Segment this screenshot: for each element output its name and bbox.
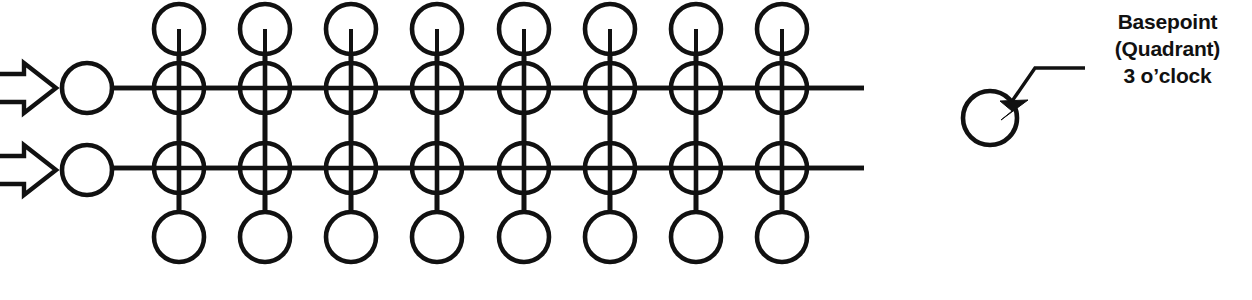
basepoint-quadrant-diagram [0,0,1252,300]
flow-arrows [0,63,56,195]
flow-arrow-upper [0,63,56,113]
legend-caption-line-2: (Quadrant) [1085,35,1250,62]
legend-caption-line-1: Basepoint [1085,8,1250,35]
basepoint-circles [62,63,112,195]
node-circle-r4-c5 [499,212,549,262]
vertical-column-lines [179,29,782,237]
crosshair-overlay [112,56,864,212]
node-circle-r4-c7 [671,212,721,262]
horizontal-main-lines [112,88,864,168]
flow-arrow-lower [0,145,56,195]
node-circle-r4-c3 [326,212,376,262]
basepoint-circle-upper [62,63,112,113]
legend-caption-line-3: 3 o’clock [1085,62,1250,89]
legend-basepoint-circle [963,91,1017,145]
node-circle-r4-c1 [154,212,204,262]
node-circle-r4-c8 [757,212,807,262]
node-circle-r4-c4 [412,212,462,262]
legend-marker-group [963,91,1017,145]
legend-caption: Basepoint (Quadrant) 3 o’clock [1085,8,1250,89]
row-bottom-stub-circles [154,212,807,262]
basepoint-circle-lower [62,145,112,195]
diagram-canvas: Basepoint (Quadrant) 3 o’clock [0,0,1252,300]
node-circle-r4-c6 [585,212,635,262]
row-top-stub-circles [154,4,807,56]
node-circle-r4-c2 [240,212,290,262]
